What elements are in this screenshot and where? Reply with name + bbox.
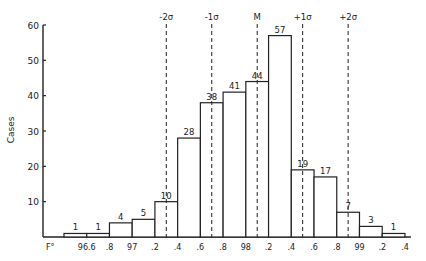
histogram-bar xyxy=(109,223,132,237)
bar-value-label: 5 xyxy=(141,208,146,218)
bar-value-label: 44 xyxy=(252,71,263,81)
x-tick-label: .6 xyxy=(310,243,318,252)
bar-value-label: 1 xyxy=(391,222,396,232)
bar-value-label: 57 xyxy=(275,25,286,35)
histogram-bar xyxy=(132,219,155,237)
bar-value-label: 41 xyxy=(229,81,240,91)
x-tick-label: .2 xyxy=(265,243,273,252)
y-tick-label: 40 xyxy=(28,91,40,101)
y-tick-label: 60 xyxy=(28,21,40,31)
bar-value-label: 1 xyxy=(73,222,78,232)
x-tick-label: 98 xyxy=(241,243,251,252)
histogram-bar xyxy=(178,138,201,237)
x-tick-label: 99 xyxy=(354,243,364,252)
bar-value-label: 1 xyxy=(95,222,100,232)
x-tick-label: .6 xyxy=(197,243,205,252)
bar-value-label: 7 xyxy=(345,201,350,211)
histogram-chart: 102030405060 CasesF°11451028384144571917… xyxy=(0,0,426,261)
bars xyxy=(64,36,405,237)
x-tick-label: 97 xyxy=(127,243,137,252)
x-tick-label: .8 xyxy=(219,243,227,252)
y-tick-label: 50 xyxy=(28,56,40,66)
y-tick-label: 10 xyxy=(28,197,40,207)
x-tick-label: .8 xyxy=(333,243,341,252)
sigma-label: +1σ xyxy=(294,12,313,22)
histogram-bar xyxy=(359,226,382,237)
sigma-label: -2σ xyxy=(159,12,173,22)
histogram-bar xyxy=(87,233,110,237)
histogram-bar xyxy=(269,36,292,237)
sigma-label: -1σ xyxy=(205,12,219,22)
x-axis-label: F° xyxy=(46,243,55,252)
x-tick-label: .2 xyxy=(378,243,386,252)
y-tick-label: 20 xyxy=(28,162,40,172)
y-axis-label: Cases xyxy=(6,116,16,143)
x-tick-label: .8 xyxy=(106,243,114,252)
bar-value-label: 38 xyxy=(206,92,217,102)
histogram-bar xyxy=(64,233,87,237)
y-tick-label: 30 xyxy=(28,127,40,137)
bar-value-label: 17 xyxy=(320,166,331,176)
bar-value-label: 28 xyxy=(184,127,195,137)
bar-value-label: 19 xyxy=(297,159,308,169)
x-tick-label: .2 xyxy=(151,243,159,252)
bar-value-label: 3 xyxy=(368,215,373,225)
sigma-label: +2σ xyxy=(339,12,358,22)
bar-value-label: 4 xyxy=(118,212,123,222)
sigma-label: M xyxy=(254,12,261,22)
bar-value-label: 10 xyxy=(161,191,172,201)
histogram-bar xyxy=(382,233,405,237)
x-tick-label: .4 xyxy=(401,243,409,252)
histogram-bar xyxy=(314,177,337,237)
x-tick-label: .4 xyxy=(287,243,295,252)
x-tick-label: 96.6 xyxy=(78,243,96,252)
histogram-bar xyxy=(223,92,246,237)
x-tick-label: .4 xyxy=(174,243,182,252)
